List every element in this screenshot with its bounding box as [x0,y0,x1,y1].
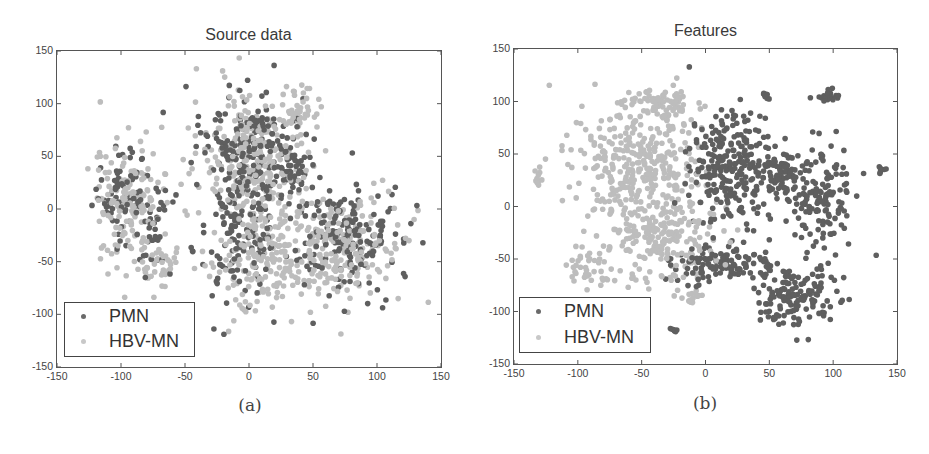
legend-entry-pmn: PMN [65,305,194,329]
x-tick-label: 150 [426,370,456,382]
chart-title-b: Features [513,22,898,40]
legend-label-hbv-mn: HBV-MN [564,327,634,348]
y-tick-label: 150 [481,42,510,54]
x-tick-label: -50 [170,370,200,382]
caption-b: (b) [655,393,755,413]
legend-label-hbv-mn: HBV-MN [109,331,179,352]
x-tick-label: 0 [691,367,721,379]
y-tick-label: 50 [24,149,53,161]
y-tick-label: -100 [481,305,510,317]
pmn-marker-icon [536,309,541,314]
x-tick-label: 50 [754,367,784,379]
y-tick-label: 100 [481,95,510,107]
legend-label-pmn: PMN [564,301,604,322]
y-tick-label: 50 [481,147,510,159]
y-tick-label: -50 [24,255,53,267]
x-tick-label: -100 [563,367,593,379]
x-tick-label: 100 [362,370,392,382]
x-tick-label: 50 [298,370,328,382]
hbv-mn-marker-icon [536,335,541,340]
legend-entry-pmn: PMN [520,300,650,324]
x-tick-label: 150 [882,367,912,379]
x-tick-label: 0 [234,370,264,382]
y-tick-label: 0 [481,200,510,212]
hbv-mn-marker-icon [81,339,86,344]
y-tick-label: 150 [24,44,53,56]
pmn-marker-icon [81,314,86,319]
chart-title-a: Source data [56,26,441,44]
x-tick-label: -100 [106,370,136,382]
x-tick-label: -50 [627,367,657,379]
y-tick-label: -50 [481,252,510,264]
y-tick-label: 0 [24,202,53,214]
legend-a: PMN HBV-MN [64,302,195,357]
legend-entry-hbv-mn: HBV-MN [520,326,650,350]
x-tick-label: 100 [818,367,848,379]
legend-label-pmn: PMN [109,306,149,327]
x-tick-label: -150 [42,370,72,382]
y-tick-label: 100 [24,97,53,109]
caption-a: (a) [200,395,300,415]
legend-entry-hbv-mn: HBV-MN [65,330,194,354]
x-tick-label: -150 [499,367,529,379]
y-tick-label: -100 [24,307,53,319]
legend-b: PMN HBV-MN [519,297,651,353]
